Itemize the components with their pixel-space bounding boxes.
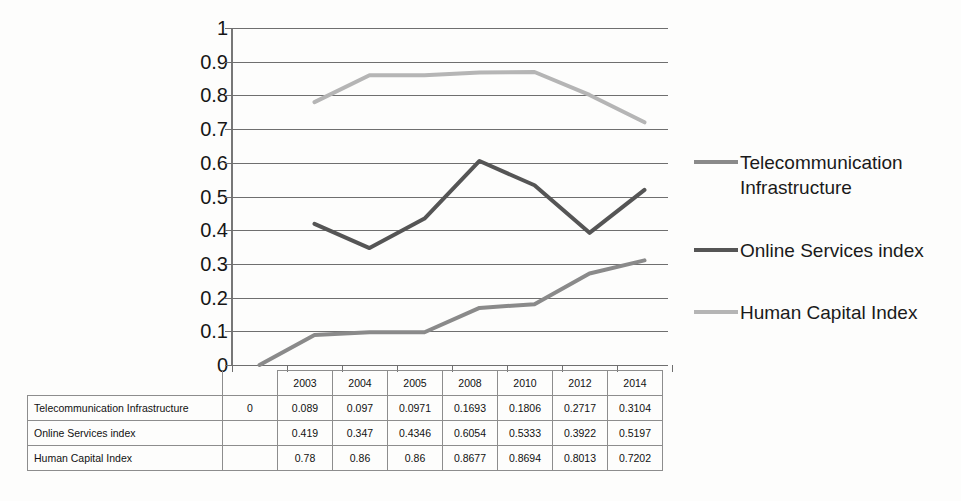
table-year-header: 2010 [498,371,553,396]
legend-label: Online Services index [740,238,924,263]
y-tick-label: 0.5 [186,187,228,207]
table-cell: 0.8013 [553,446,608,471]
table-header-row: 2003200420052008201020122014 [28,371,663,396]
y-tick-label: 0.1 [186,321,228,341]
table-cell: 0.089 [278,396,333,421]
table-cell: 0.5197 [608,421,663,446]
table-cell: 0.097 [333,396,388,421]
y-axis-tick-labels: 00.10.20.30.40.50.60.70.80.91 [186,0,228,372]
legend-entry[interactable]: Online Services index [694,238,924,263]
table-cell: 0.2717 [553,396,608,421]
table-cell: 0.86 [333,446,388,471]
legend-entry[interactable]: Telecommunication Infrastructure [694,150,903,200]
y-tick-label: 0.3 [186,254,228,274]
legend-color-swatch [694,310,738,314]
table-cell: 0.3104 [608,396,663,421]
legend-label: Human Capital Index [740,300,917,325]
table-cell: 0.8694 [498,446,553,471]
y-tickmark [225,62,232,63]
y-tickmark [225,28,232,29]
table-cell: 0.0971 [388,396,443,421]
y-tickmark [225,163,232,164]
table-row: Telecommunication Infrastructure00.0890.… [28,396,663,421]
table-origin-cell [223,446,278,471]
table-row-label: Telecommunication Infrastructure [28,396,223,421]
table-cell: 0.6054 [443,421,498,446]
y-tickmark [225,95,232,96]
table-cell: 0.3922 [553,421,608,446]
table-row-label: Human Capital Index [28,446,223,471]
table-cell: 0.419 [278,421,333,446]
y-tickmark [225,197,232,198]
y-tick-label: 0.2 [186,288,228,308]
table-cell: 0.4346 [388,421,443,446]
table-cell: 0.7202 [608,446,663,471]
table-cell: 0.1806 [498,396,553,421]
legend-color-swatch [694,248,738,252]
table-year-header: 2012 [553,371,608,396]
y-tickmark [225,298,232,299]
y-tick-label: 0.4 [186,220,228,240]
table-year-header: 2004 [333,371,388,396]
table-cell: 0.5333 [498,421,553,446]
table-cell: 0.8677 [443,446,498,471]
table-year-header: 2003 [278,371,333,396]
y-tick-label: 0.7 [186,119,228,139]
table-cell: 0.86 [388,446,443,471]
series-line [315,72,645,122]
y-tickmark [225,331,232,332]
y-tick-label: 0.8 [186,85,228,105]
series-line [260,260,645,365]
table-row: Online Services index0.4190.3470.43460.6… [28,421,663,446]
table-cell: 0.78 [278,446,333,471]
y-tick-label: 1 [186,18,228,38]
y-tickmark [225,264,232,265]
table-year-header: 2014 [608,371,663,396]
table-corner-blank [28,371,223,396]
chart-page: 00.10.20.30.40.50.60.70.80.91 Telecommun… [0,0,961,501]
y-tickmark [225,365,232,366]
series-lines [232,28,668,365]
table-origin-blank [223,371,278,396]
y-tickmark [225,230,232,231]
y-tickmark [225,129,232,130]
plot-area [232,28,668,365]
y-tick-label: 0.6 [186,153,228,173]
legend-color-swatch [694,160,738,164]
legend-entry[interactable]: Human Capital Index [694,300,917,325]
legend-label: Telecommunication Infrastructure [740,150,903,200]
y-tick-label: 0.9 [186,52,228,72]
table-origin-cell: 0 [223,396,278,421]
table-year-header: 2008 [443,371,498,396]
table-year-header: 2005 [388,371,443,396]
table-origin-cell [223,421,278,446]
table-cell: 0.1693 [443,396,498,421]
series-line [315,161,645,248]
x-tickmark [672,365,673,372]
table-cell: 0.347 [333,421,388,446]
chart-data-table: 2003200420052008201020122014 Telecommuni… [27,370,663,471]
table-row-label: Online Services index [28,421,223,446]
table-row: Human Capital Index0.780.860.860.86770.8… [28,446,663,471]
